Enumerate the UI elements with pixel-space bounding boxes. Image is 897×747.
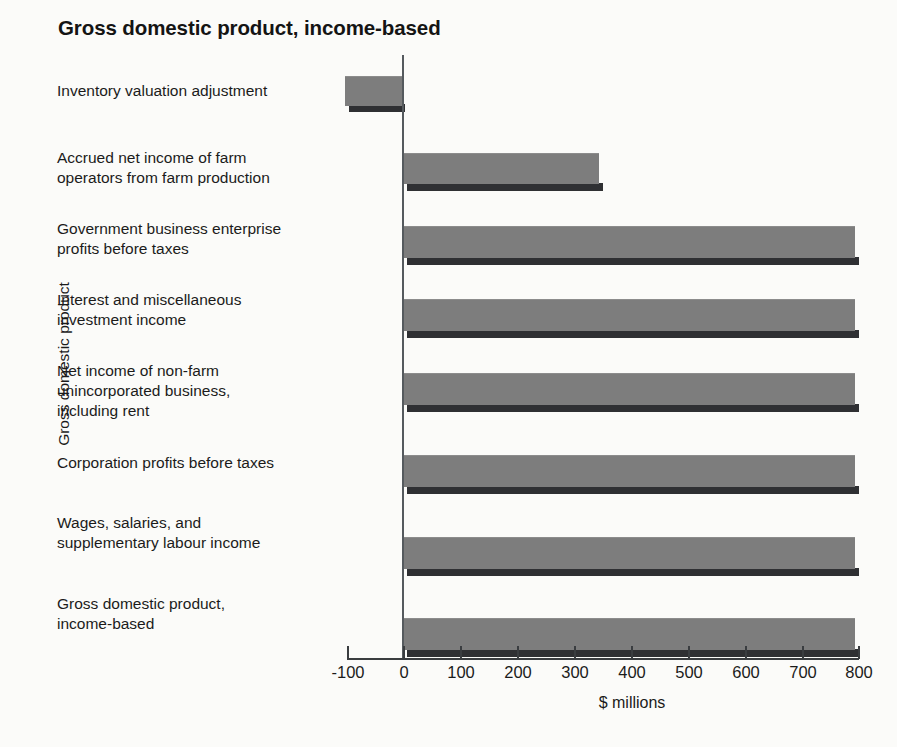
bar-2 — [403, 226, 855, 258]
x-tick-mark — [745, 646, 747, 659]
category-label-line: Corporation profits before taxes — [57, 453, 347, 473]
bar-shadow-7 — [407, 649, 859, 657]
x-tick-mark — [858, 646, 860, 659]
category-label-line: Interest and miscellaneous — [57, 290, 347, 310]
category-label-5: Corporation profits before taxes — [57, 453, 347, 473]
category-label-line: operators from farm production — [57, 168, 347, 188]
chart-figure: Gross domestic product, income-based Gro… — [0, 0, 897, 747]
bar-shadow-3 — [407, 330, 859, 338]
bar-3 — [403, 299, 855, 331]
bar-shadow-2 — [407, 257, 859, 265]
bar-0 — [345, 76, 403, 106]
x-tick-mark — [347, 646, 349, 659]
category-label-0: Inventory valuation adjustment — [57, 81, 347, 101]
x-tick-mark — [574, 646, 576, 659]
category-label-line: profits before taxes — [57, 239, 347, 259]
category-label-line: Accrued net income of farm — [57, 148, 347, 168]
category-label-line: including rent — [57, 401, 347, 421]
bar-6 — [403, 537, 855, 569]
category-label-line: unincorporated business, — [57, 381, 347, 401]
x-tick-label: 400 — [618, 663, 646, 682]
bar-shadow-6 — [407, 568, 859, 576]
x-tick-mark — [460, 646, 462, 659]
category-label-line: Government business enterprise — [57, 219, 347, 239]
bar-shadow-5 — [407, 486, 859, 494]
bar-1 — [403, 153, 599, 184]
x-tick-label: 700 — [789, 663, 817, 682]
x-tick-mark — [403, 646, 405, 659]
x-tick-label: 600 — [732, 663, 760, 682]
bar-shadow-1 — [407, 183, 603, 191]
category-label-line: income-based — [57, 614, 347, 634]
plot-area: Inventory valuation adjustment Accrued n… — [0, 0, 897, 747]
bar-7 — [403, 618, 855, 650]
x-tick-label: 500 — [675, 663, 703, 682]
bar-5 — [403, 455, 855, 487]
x-tick-mark — [802, 646, 804, 659]
x-tick-label: 0 — [399, 663, 408, 682]
category-label-3: Interest and miscellaneous investment in… — [57, 290, 347, 330]
zero-axis-line — [402, 55, 404, 658]
category-label-line: investment income — [57, 310, 347, 330]
x-axis-line — [347, 658, 859, 660]
category-label-line: Net income of non-farm — [57, 361, 347, 381]
x-tick-mark — [631, 646, 633, 659]
category-label-6: Wages, salaries, and supplementary labou… — [57, 513, 347, 553]
x-tick-label: 100 — [447, 663, 475, 682]
x-tick-mark — [517, 646, 519, 659]
category-label-7: Gross domestic product, income-based — [57, 594, 347, 634]
category-label-1: Accrued net income of farm operators fro… — [57, 148, 347, 188]
category-label-line: Inventory valuation adjustment — [57, 81, 347, 101]
bar-4 — [403, 373, 855, 405]
category-label-4: Net income of non-farm unincorporated bu… — [57, 361, 347, 421]
x-tick-label: 300 — [561, 663, 589, 682]
bar-shadow-4 — [407, 404, 859, 412]
x-tick-label: -100 — [331, 663, 364, 682]
category-label-line: supplementary labour income — [57, 533, 347, 553]
category-label-line: Wages, salaries, and — [57, 513, 347, 533]
x-axis-title: $ millions — [402, 694, 862, 712]
category-label-2: Government business enterprise profits b… — [57, 219, 347, 259]
x-tick-label: 800 — [845, 663, 873, 682]
x-tick-mark — [688, 646, 690, 659]
category-label-line: Gross domestic product, — [57, 594, 347, 614]
x-tick-label: 200 — [504, 663, 532, 682]
